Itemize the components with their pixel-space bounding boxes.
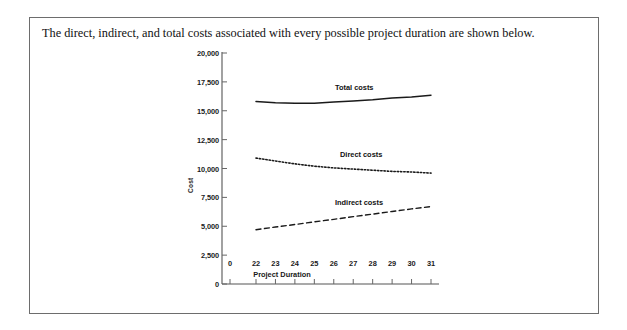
y-tick-label: 5,000: [201, 222, 219, 231]
x-tick-label: 30: [407, 259, 415, 268]
series-line-total-costs: [256, 95, 431, 103]
chart-plot-area: 02,5005,0007,50010,00012,50015,00017,500…: [30, 18, 600, 315]
x-tick-label: 24: [291, 259, 299, 268]
y-tick-label: 20,000: [197, 49, 219, 58]
x-tick-label: 25: [310, 259, 318, 268]
y-tick-label: 15,000: [197, 106, 219, 115]
x-axis-title-text: Project Duration: [253, 270, 311, 279]
series-label-indirect-costs: Indirect costs: [333, 198, 385, 207]
x-tick-label: 29: [388, 259, 396, 268]
y-tick-label: 0: [215, 280, 219, 289]
x-tick-label: 23: [271, 259, 279, 268]
series-label-total-costs: Total costs: [333, 83, 375, 92]
y-tick-label: 10,000: [197, 164, 219, 173]
y-tick-label: 12,500: [197, 135, 219, 144]
y-tick-label: 2,500: [201, 251, 219, 260]
x-tick-label: 22: [252, 259, 260, 268]
x-tick-label: 26: [330, 259, 338, 268]
figure-panel: The direct, indirect, and total costs as…: [29, 17, 599, 314]
y-tick-label: 7,500: [201, 193, 219, 202]
series-line-indirect-costs: [256, 207, 431, 230]
x-tick-label: 31: [427, 259, 435, 268]
chart-axes: [222, 52, 439, 284]
x-tick-label: 27: [349, 259, 357, 268]
x-tick-label: 28: [369, 259, 377, 268]
y-axis-title: Cost: [187, 178, 194, 193]
chart-series: [256, 95, 431, 230]
series-line-direct-costs: [256, 158, 431, 173]
y-tick-label: 17,500: [197, 77, 219, 86]
x-tick-label: 0: [228, 259, 232, 268]
series-label-direct-costs: Direct costs: [338, 150, 384, 159]
x-axis-title: Project Duration: [30, 270, 600, 279]
